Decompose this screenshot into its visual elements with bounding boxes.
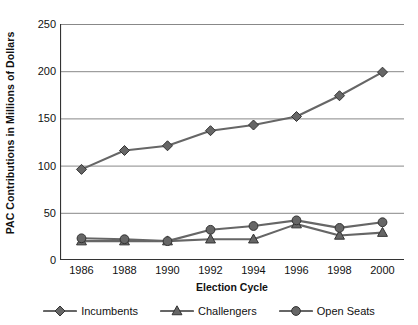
- chart-legend: IncumbentsChallengersOpen Seats: [0, 300, 418, 322]
- legend-item-incumbents[interactable]: Incumbents: [43, 304, 138, 318]
- x-axis-tick-labels: 19861988199019921994199619982000: [60, 264, 404, 280]
- legend-swatch-diamond-icon: [43, 304, 77, 318]
- x-axis-tick-label: 1992: [188, 264, 234, 276]
- y-axis-title: PAC Contributions in Millions of Dollars: [0, 0, 20, 265]
- legend-label: Incumbents: [81, 305, 138, 317]
- data-point-marker: [163, 237, 172, 246]
- axis-lines: [60, 24, 404, 260]
- series-incumbents: [82, 72, 383, 169]
- data-point-marker: [292, 112, 302, 122]
- data-point-marker: [120, 235, 129, 244]
- x-axis-tick-label: 1986: [59, 264, 105, 276]
- data-point-marker: [55, 306, 65, 316]
- data-point-marker: [292, 216, 301, 225]
- y-axis-tick-label: 200: [26, 65, 56, 77]
- y-axis-tick-labels: 050100150200250: [20, 0, 56, 325]
- data-point-marker: [77, 234, 86, 243]
- y-axis-tick-label: 150: [26, 112, 56, 124]
- data-point-marker: [120, 145, 130, 155]
- x-axis-tick-label: 1990: [145, 264, 191, 276]
- data-point-marker: [206, 225, 215, 234]
- legend-item-open-seats[interactable]: Open Seats: [279, 304, 375, 318]
- x-axis-tick-label: 1994: [231, 264, 277, 276]
- x-axis-tick-label: 1996: [274, 264, 320, 276]
- y-axis-tick-label: 0: [26, 254, 56, 266]
- y-axis-title-text: PAC Contributions in Millions of Dollars: [4, 31, 16, 234]
- data-point-marker: [378, 67, 388, 77]
- x-axis-tick-label: 2000: [360, 264, 406, 276]
- data-point-marker: [378, 218, 387, 227]
- series-markers-open-seats: [77, 216, 387, 246]
- data-point-marker: [291, 307, 300, 316]
- chart-canvas: [60, 24, 404, 260]
- plot-area: [60, 24, 404, 260]
- data-point-marker: [335, 224, 344, 233]
- legend-swatch-triangle-icon: [160, 304, 194, 318]
- y-axis-tick-label: 250: [26, 18, 56, 30]
- data-point-marker: [249, 120, 259, 130]
- legend-item-challengers[interactable]: Challengers: [160, 304, 257, 318]
- grid-lines: [60, 25, 404, 261]
- data-point-marker: [163, 141, 173, 151]
- chart-figure: PAC Contributions in Millions of Dollars…: [0, 0, 418, 325]
- x-axis-title: Election Cycle: [60, 281, 404, 293]
- y-axis-tick-label: 100: [26, 160, 56, 172]
- series-markers-incumbents: [77, 67, 388, 174]
- series-line: [82, 72, 383, 169]
- data-point-marker: [206, 126, 216, 136]
- legend-swatch-circle-icon: [279, 304, 313, 318]
- x-axis-tick-label: 1988: [102, 264, 148, 276]
- y-axis-tick-label: 50: [26, 207, 56, 219]
- x-axis-tick-label: 1998: [317, 264, 363, 276]
- legend-label: Open Seats: [317, 305, 375, 317]
- legend-label: Challengers: [198, 305, 257, 317]
- data-point-marker: [249, 222, 258, 231]
- data-point-marker: [335, 91, 345, 101]
